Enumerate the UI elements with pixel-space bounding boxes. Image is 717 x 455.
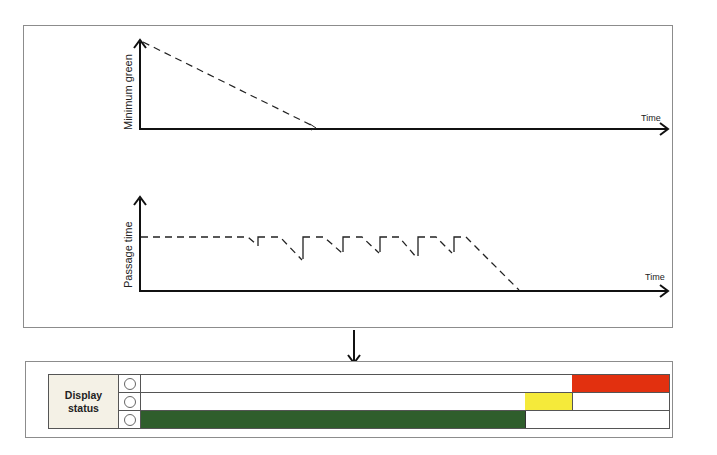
green-lamp-icon [124,414,136,426]
green-interval-bar [141,411,526,428]
passage-time-ylabel: Passage time [122,221,134,288]
label-line-2: status [68,402,99,414]
yellow-interval-bar [525,393,573,410]
passage-time-xlabel: Time [645,272,665,282]
passage-time-chart: Passage time Time [122,197,668,297]
signal-lamp-column [119,375,141,428]
label-line-1: Display [65,389,102,401]
minimum-green-countdown-line [143,42,315,127]
down-arrow-icon [348,330,360,363]
red-lamp-icon [124,378,136,390]
minimum-green-xlabel: Time [641,113,661,123]
red-row [141,375,669,393]
yellow-row [141,393,669,411]
display-status-label: Displaystatus [49,375,119,428]
green-row [141,411,669,428]
passage-timer-line [141,237,519,290]
red-interval-bar [572,375,669,392]
signal-timeline [141,375,669,428]
yellow-lamp-icon [124,396,136,408]
minimum-green-ylabel: Minimum green [122,54,134,130]
minimum-green-chart: Minimum green Time [122,40,668,135]
display-status-table: Displaystatus [48,374,670,429]
